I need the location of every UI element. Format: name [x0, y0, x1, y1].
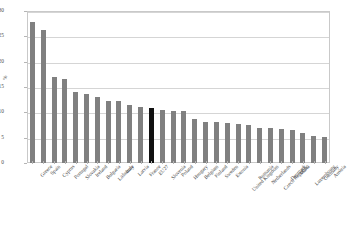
bar-czech-republic [268, 128, 273, 163]
y-tick-label: 25 [0, 33, 4, 38]
x-tick-mark [162, 161, 163, 164]
x-tick-mark [195, 161, 196, 164]
bar-series [27, 11, 330, 163]
bar-eu27 [149, 108, 154, 163]
x-tick-mark [108, 161, 109, 164]
x-tick-mark [325, 161, 326, 164]
bar-germany [311, 136, 316, 163]
bar-latvia [127, 105, 132, 163]
bar-malta [290, 130, 295, 163]
y-tick-label: 30 [0, 8, 4, 13]
x-tick-mark [173, 161, 174, 164]
bar-sweden [214, 122, 219, 163]
x-tick-mark [260, 161, 261, 164]
bar-france [138, 107, 143, 163]
bar-spain [41, 30, 46, 163]
y-tick-label: 10 [0, 109, 4, 114]
bar-hungary [181, 111, 186, 163]
x-tick-mark [97, 161, 98, 164]
x-tick-mark [238, 161, 239, 164]
bar-portugal [62, 79, 67, 163]
x-tick-mark [119, 161, 120, 164]
x-tick-mark [76, 161, 77, 164]
x-tick-mark [227, 161, 228, 164]
x-tick-label-latvia: Latvia [137, 164, 150, 177]
x-tick-mark [303, 161, 304, 164]
x-tick-mark [130, 161, 131, 164]
bar-luxembourg [300, 133, 305, 163]
x-tick-mark [292, 161, 293, 164]
bar-austria [322, 137, 327, 163]
bar-slovenia [160, 110, 165, 163]
bar-slovakia [73, 92, 78, 163]
y-axis-title: % [2, 76, 8, 80]
bar-finland [203, 122, 208, 163]
bar-cyprus [52, 77, 57, 163]
bar-romania [246, 125, 251, 164]
bar-bulgaria [95, 97, 100, 163]
x-tick-mark [141, 161, 142, 164]
x-tick-mark [151, 161, 152, 164]
y-tick-label: 0 [0, 160, 4, 165]
x-tick-mark [314, 161, 315, 164]
bar-netherlands [257, 128, 262, 163]
bar-estonia [225, 123, 230, 163]
bar-belgium [192, 119, 197, 163]
x-tick-mark [87, 161, 88, 164]
bar-ireland [84, 94, 89, 163]
x-tick-mark [206, 161, 207, 164]
x-tick-mark [249, 161, 250, 164]
x-tick-mark [216, 161, 217, 164]
x-tick-mark [184, 161, 185, 164]
bar-lithuania [106, 101, 111, 163]
x-tick-mark [65, 161, 66, 164]
x-tick-mark [54, 161, 55, 164]
bar-united-kingdom [236, 124, 241, 163]
x-tick-mark [32, 161, 33, 164]
y-tick-label: 15 [0, 84, 4, 89]
bar-denmark [279, 129, 284, 163]
x-tick-mark [270, 161, 271, 164]
x-axis: GreeceSpainCyprusPortugalSlovakiaIreland… [27, 164, 330, 228]
x-tick-mark [281, 161, 282, 164]
y-tick-label: 20 [0, 59, 4, 64]
bar-italy [116, 101, 121, 163]
y-tick-label: 5 [0, 135, 4, 140]
x-tick-mark [43, 161, 44, 164]
bar-greece [30, 22, 35, 163]
bar-poland [171, 111, 176, 163]
